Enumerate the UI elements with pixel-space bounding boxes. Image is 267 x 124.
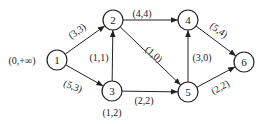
node-label: 5 (185, 86, 191, 98)
node-label: 2 (110, 14, 116, 26)
edge-label: (4,4) (132, 8, 151, 20)
node-label: 6 (241, 56, 247, 68)
node-label: 3 (109, 85, 115, 97)
edge-label: (5,3) (62, 77, 84, 95)
node-annotation: (1,2) (102, 107, 121, 119)
edge-1-2: (3,3) (65, 21, 105, 54)
node-4: 4 (178, 10, 198, 30)
node-1: 1(0,+∞) (9, 50, 67, 70)
edge-label: (2,2) (209, 77, 232, 97)
node-annotation: (0,+∞) (9, 55, 36, 67)
edge-label: (3,3) (66, 21, 89, 42)
edge-label: (1,0) (142, 44, 164, 66)
edge-label: (2,2) (134, 95, 153, 107)
node-2: 2 (103, 10, 123, 30)
edge-label: (1,1) (89, 52, 108, 64)
node-3: 3(1,2) (102, 81, 122, 119)
edge-2-4: (4,4) (123, 8, 178, 21)
edge-3-5: (2,2) (122, 91, 178, 106)
edge-label: (3,0) (192, 52, 211, 64)
edge-3-2: (1,1) (89, 30, 112, 81)
edge-2-5: (1,0) (120, 27, 181, 85)
flow-network-diagram: (3,3)(5,3)(1,1)(4,4)(1,0)(2,2)(3,0)(5,4)… (0, 0, 267, 124)
edge-5-4: (3,0) (188, 30, 212, 82)
edge-arrow (112, 30, 113, 81)
node-5: 5 (178, 82, 198, 102)
node-label: 1 (54, 54, 60, 66)
node-6: 6 (234, 52, 254, 72)
edge-1-3: (5,3) (62, 65, 104, 96)
node-label: 4 (185, 14, 191, 26)
edge-5-6: (2,2) (197, 67, 235, 98)
edge-arrow (122, 91, 178, 92)
